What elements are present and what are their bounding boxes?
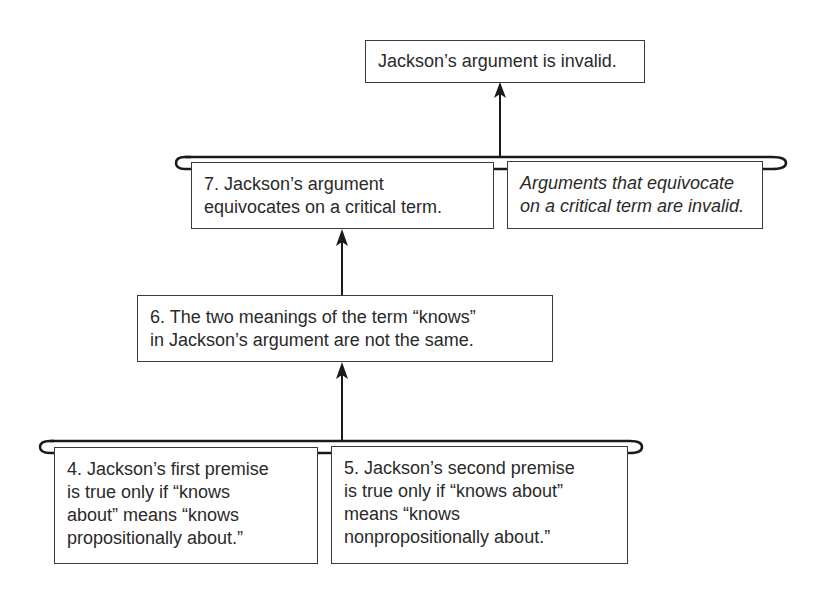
- premise-4-line-2: is true only if “knows: [67, 481, 305, 504]
- conclusion-box: Jackson’s argument is invalid.: [365, 40, 645, 83]
- premise-5-line-2: is true only if “knows about”: [344, 480, 615, 503]
- premise-4-line-4: propositionally about.”: [67, 527, 305, 550]
- premise-6-line-1: 6. The two meanings of the term “knows”: [150, 306, 540, 329]
- hidden-premise-box: Arguments that equivocate on a critical …: [507, 161, 763, 229]
- arrow-to-conclusion: [494, 82, 506, 157]
- premise-6-box: 6. The two meanings of the term “knows” …: [137, 295, 553, 362]
- premise-4-line-1: 4. Jackson’s first premise: [67, 458, 305, 481]
- premise-5-line-3: means “knows: [344, 503, 615, 526]
- arrow-bracket-to-6: [336, 362, 348, 440]
- premise-5-box: 5. Jackson’s second premise is true only…: [331, 446, 628, 564]
- conclusion-text: Jackson’s argument is invalid.: [378, 50, 632, 73]
- premise-4-box: 4. Jackson’s first premise is true only …: [54, 447, 318, 564]
- premise-4-line-3: about” means “knows: [67, 504, 305, 527]
- premise-5-line-4: nonpropositionally about.”: [344, 526, 615, 549]
- premise-7-box: 7. Jackson’s argument equivocates on a c…: [191, 162, 494, 229]
- arrow-6-to-7: [336, 229, 348, 295]
- hidden-premise-line-1: Arguments that equivocate: [520, 172, 750, 195]
- premise-6-line-2: in Jackson’s argument are not the same.: [150, 329, 540, 352]
- premise-7-line-2: equivocates on a critical term.: [204, 196, 481, 219]
- hidden-premise-line-2: on a critical term are invalid.: [520, 195, 750, 218]
- premise-7-line-1: 7. Jackson’s argument: [204, 173, 481, 196]
- premise-5-line-1: 5. Jackson’s second premise: [344, 457, 615, 480]
